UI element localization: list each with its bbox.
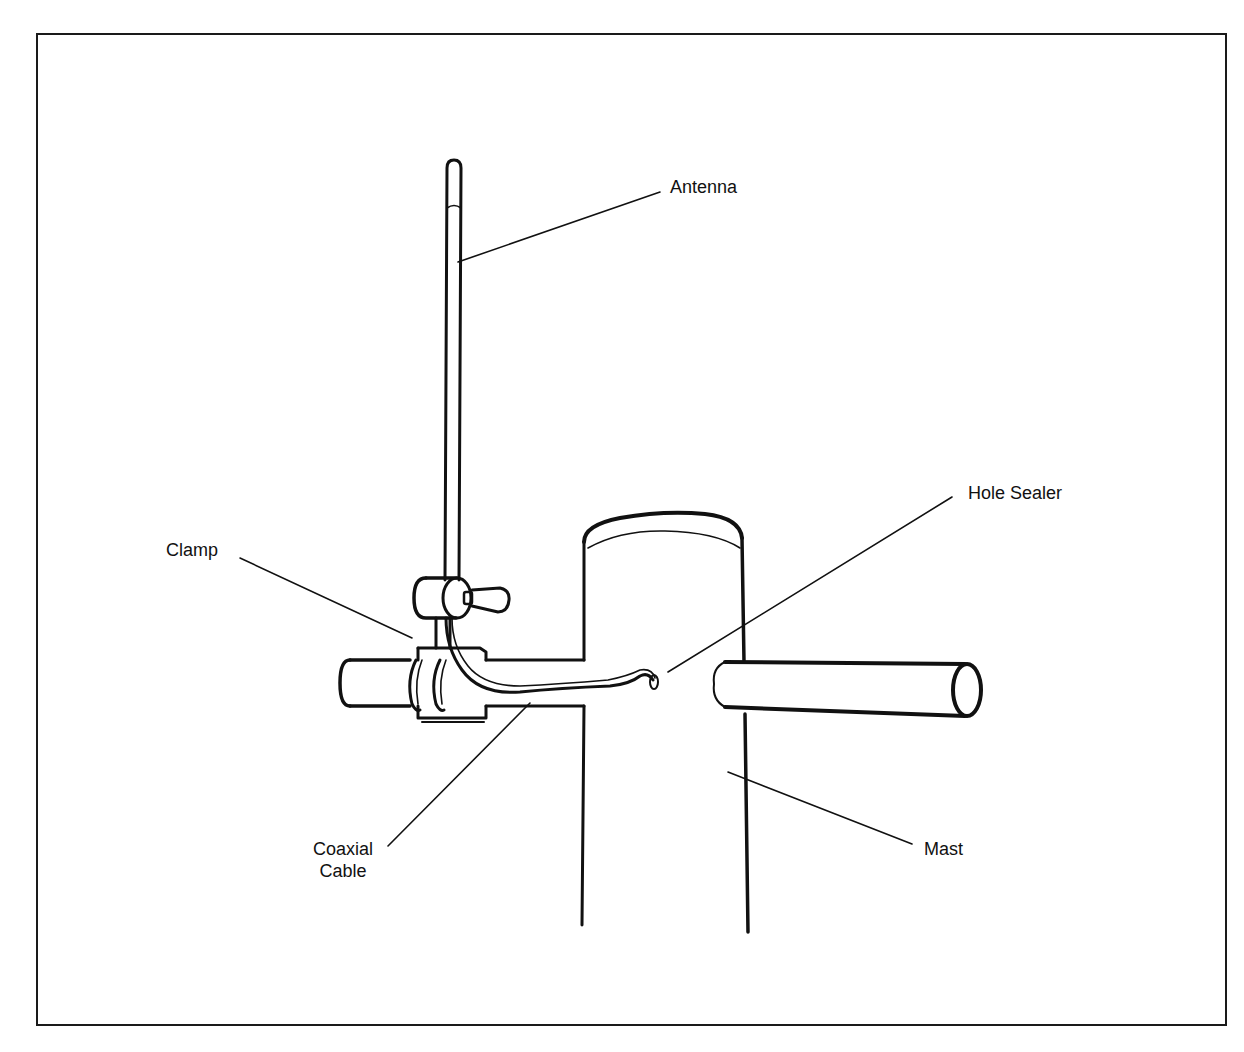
hole-sealer-leader xyxy=(668,497,952,672)
antenna-mast-drawing xyxy=(0,0,1244,1052)
clamp-label: Clamp xyxy=(166,539,218,561)
coaxial-cable-label: Coaxial Cable xyxy=(306,838,380,882)
clamp-leader xyxy=(240,558,412,638)
antenna-icon xyxy=(445,160,461,580)
mast-icon xyxy=(582,513,748,932)
antenna-leader xyxy=(458,192,660,262)
coaxial-cable-label-line2: Cable xyxy=(306,860,380,882)
coaxial-cable-label-line1: Coaxial xyxy=(306,838,380,860)
right-crossbar-icon xyxy=(714,662,981,716)
mast-label: Mast xyxy=(924,838,963,860)
antenna-label: Antenna xyxy=(670,176,737,198)
coaxial-cable-leader xyxy=(388,703,530,846)
hole-sealer-label: Hole Sealer xyxy=(968,482,1062,504)
mast-leader xyxy=(728,772,912,844)
leader-lines xyxy=(240,192,952,846)
coaxial-cable-icon xyxy=(446,618,658,692)
left-crossbar-icon xyxy=(340,660,584,706)
clamp-icon xyxy=(410,578,509,722)
